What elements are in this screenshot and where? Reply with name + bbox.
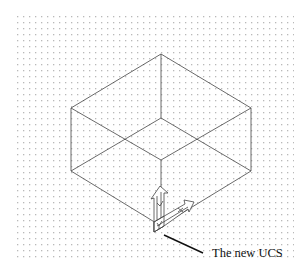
callout-label: The new UCS	[212, 246, 283, 260]
isometric-ucs-diagram: The new UCS	[0, 0, 304, 273]
